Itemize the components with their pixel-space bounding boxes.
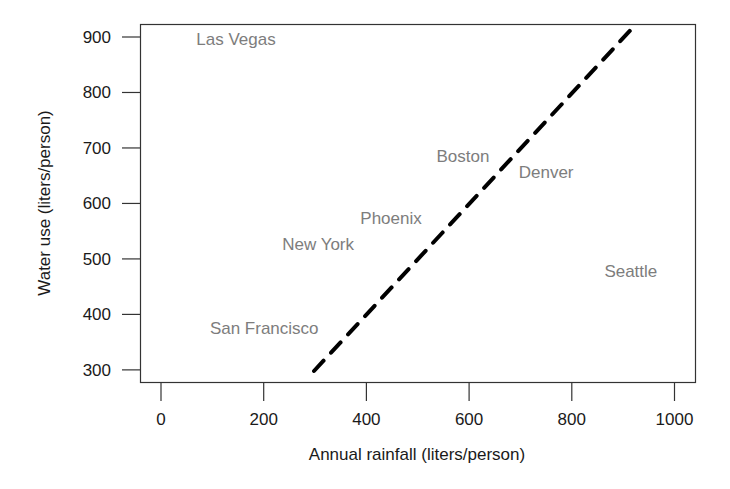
point-label-seattle: Seattle — [604, 262, 657, 281]
point-label-phoenix: Phoenix — [360, 209, 422, 228]
y-axis-title: Water use (liters/person) — [35, 110, 54, 295]
x-axis-title: Annual rainfall (liters/person) — [309, 445, 525, 464]
x-tick-label: 0 — [156, 410, 165, 429]
x-tick-label: 600 — [455, 410, 483, 429]
x-tick-label: 1000 — [656, 410, 694, 429]
scatter-chart: 300400500600700800900 02004006008001000 … — [0, 0, 730, 489]
y-axis: 300400500600700800900 — [83, 28, 140, 380]
point-label-denver: Denver — [519, 163, 574, 182]
y-tick-label: 600 — [83, 194, 111, 213]
y-tick-label: 300 — [83, 361, 111, 380]
y-tick-label: 700 — [83, 139, 111, 158]
point-label-san-francisco: San Francisco — [210, 319, 319, 338]
x-tick-label: 800 — [558, 410, 586, 429]
reference-line-dashed — [314, 24, 636, 371]
y-tick-label: 500 — [83, 250, 111, 269]
x-tick-label: 200 — [250, 410, 278, 429]
point-label-new-york: New York — [282, 235, 354, 254]
y-tick-label: 900 — [83, 28, 111, 47]
point-label-las-vegas: Las Vegas — [196, 30, 275, 49]
point-label-boston: Boston — [436, 147, 489, 166]
x-axis: 02004006008001000 — [156, 382, 693, 429]
y-tick-label: 800 — [83, 83, 111, 102]
y-tick-label: 400 — [83, 305, 111, 324]
x-tick-label: 400 — [352, 410, 380, 429]
